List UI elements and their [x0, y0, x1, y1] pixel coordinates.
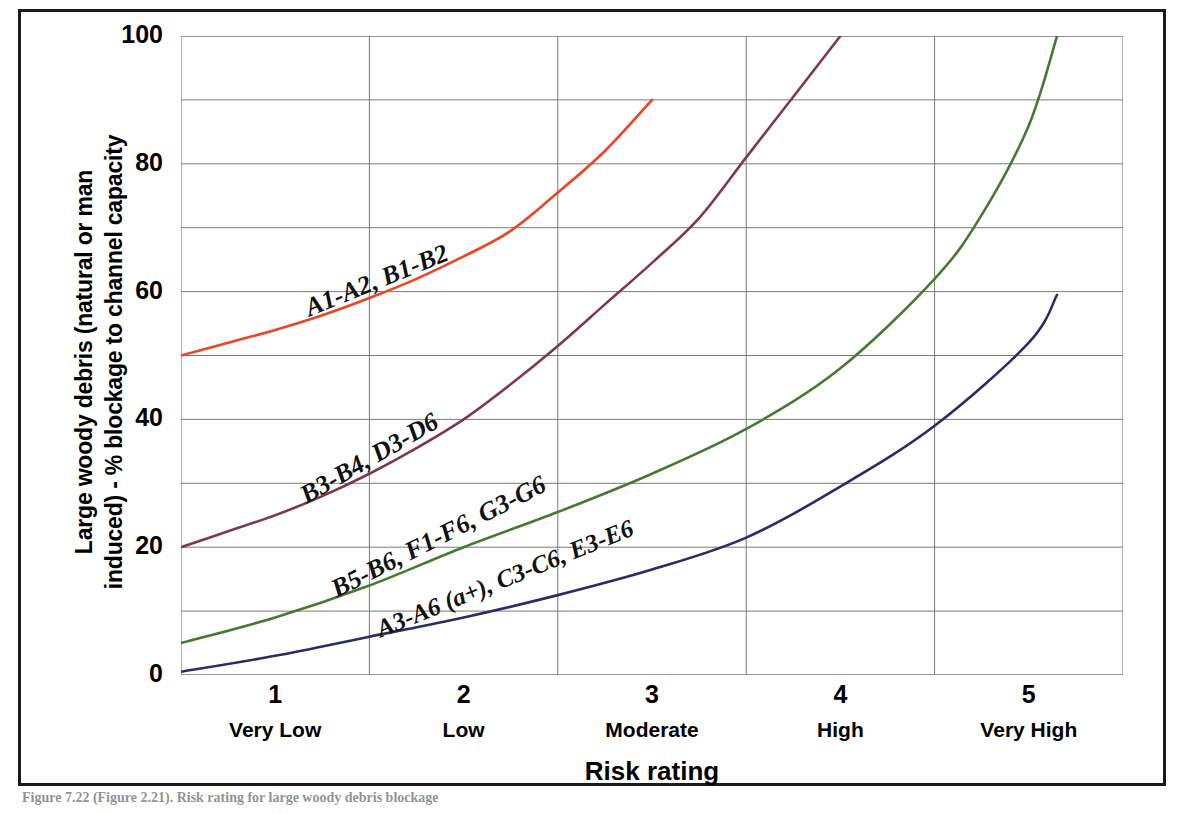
x-category-label: Very High: [934, 718, 1124, 742]
x-axis-tick-labels: 12345: [181, 680, 1123, 714]
plot-area: [181, 36, 1123, 675]
y-tick-label: 20: [103, 531, 163, 560]
x-axis-category-labels: Very LowLowModerateHighVery High: [181, 718, 1123, 748]
y-tick-label: 0: [103, 659, 163, 688]
x-category-label: Very Low: [180, 718, 370, 742]
y-tick-label: 60: [103, 276, 163, 305]
x-category-label: Moderate: [557, 718, 747, 742]
x-category-label: Low: [369, 718, 559, 742]
y-axis-tick-labels: 020406080100: [21, 12, 181, 702]
x-tick-label: 5: [989, 680, 1069, 709]
chart-canvas: [181, 36, 1123, 675]
y-tick-label: 100: [103, 20, 163, 49]
figure-caption: Figure 7.22 (Figure 2.21). Risk rating f…: [22, 790, 1122, 814]
x-tick-label: 3: [612, 680, 692, 709]
x-axis-title: Risk rating: [181, 756, 1123, 787]
y-tick-label: 80: [103, 148, 163, 177]
x-tick-label: 1: [235, 680, 315, 709]
x-category-label: High: [745, 718, 935, 742]
figure-frame: Large woody debris (natural or man induc…: [18, 9, 1166, 786]
series-curve-3: [181, 36, 1057, 643]
y-tick-label: 40: [103, 403, 163, 432]
x-tick-label: 2: [424, 680, 504, 709]
x-tick-label: 4: [800, 680, 880, 709]
